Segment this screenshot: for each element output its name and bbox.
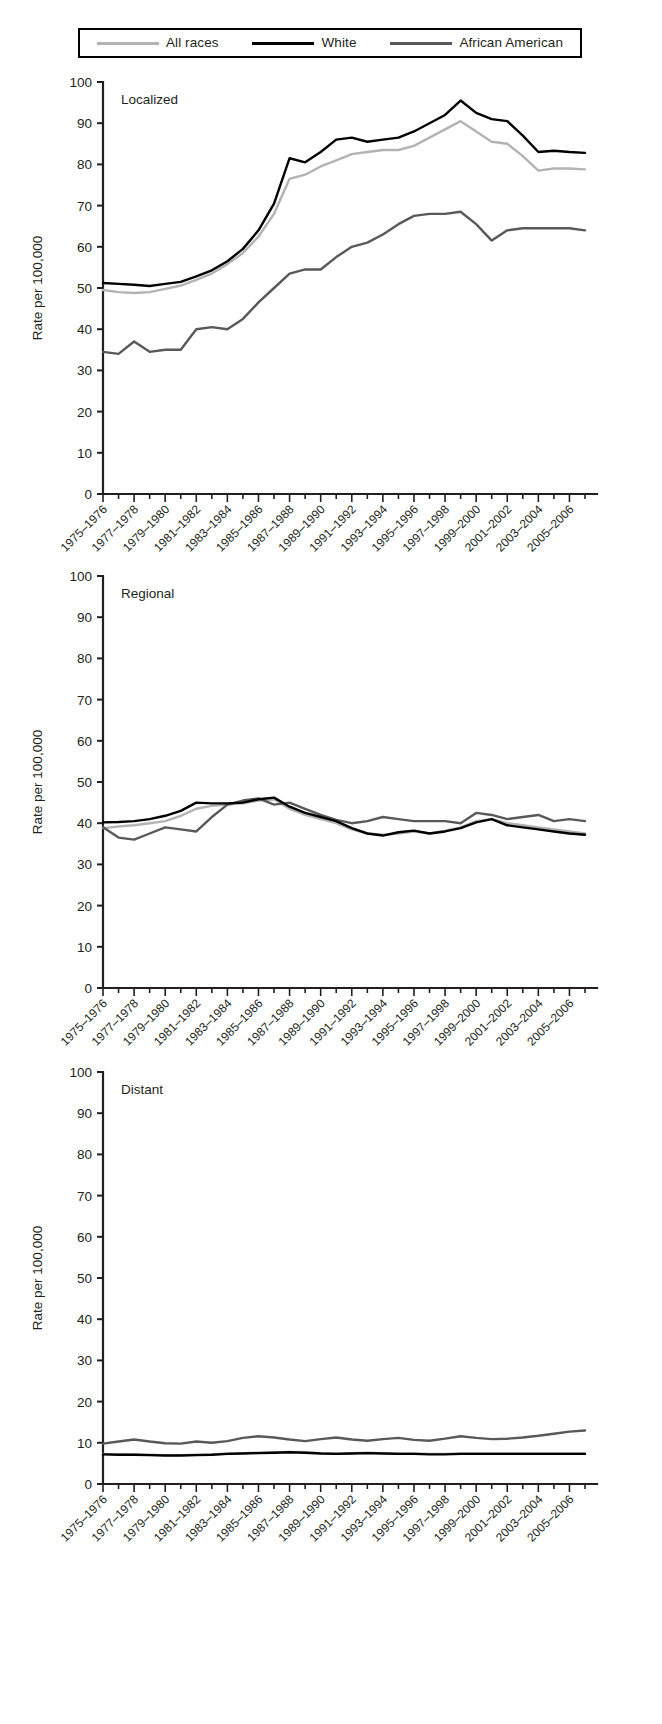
- y-tick-label: 40: [77, 322, 92, 337]
- y-tick-label: 0: [84, 487, 92, 502]
- y-tick-label: 30: [77, 857, 92, 872]
- legend-label-white: White: [321, 36, 356, 50]
- y-tick-label: 20: [77, 899, 92, 914]
- y-tick-label: 70: [77, 693, 92, 708]
- y-tick-label: 30: [77, 363, 92, 378]
- axis-lines: [103, 82, 597, 494]
- legend-item-white: White: [252, 36, 356, 50]
- panel-distant-svg: 0102030405060708090100Rate per 100,00019…: [0, 1052, 662, 1552]
- series-line-african-american: [103, 1430, 585, 1443]
- y-tick-label: 60: [77, 240, 92, 255]
- y-tick-label: 100: [69, 569, 92, 584]
- panel-title: Localized: [121, 92, 178, 107]
- figure-root: All races White African American 0102030…: [0, 0, 662, 1724]
- y-tick-label: 50: [77, 1271, 92, 1286]
- chart-panel-localized: 0102030405060708090100Rate per 100,00019…: [0, 62, 662, 562]
- series-line-african-american: [103, 798, 585, 839]
- y-tick-label: 90: [77, 610, 92, 625]
- y-tick-label: 90: [77, 116, 92, 131]
- y-tick-label: 90: [77, 1106, 92, 1121]
- y-tick-label: 0: [84, 1477, 92, 1492]
- y-tick-label: 100: [69, 75, 92, 90]
- y-tick-label: 30: [77, 1353, 92, 1368]
- y-tick-label: 60: [77, 1230, 92, 1245]
- legend-swatch-african-american: [390, 42, 452, 45]
- y-tick-label: 80: [77, 651, 92, 666]
- y-tick-label: 10: [77, 446, 92, 461]
- legend-item-african-american: African American: [390, 36, 563, 50]
- axis-lines: [103, 576, 597, 988]
- legend-item-all-races: All races: [97, 36, 219, 50]
- legend-swatch-all-races: [97, 42, 159, 45]
- y-tick-label: 50: [77, 281, 92, 296]
- panel-regional-svg: 0102030405060708090100Rate per 100,00019…: [0, 556, 662, 1056]
- series-line-all-races: [103, 121, 585, 293]
- axis-lines: [103, 1072, 597, 1484]
- panel-title: Distant: [121, 1082, 163, 1097]
- chart-legend: All races White African American: [78, 28, 582, 58]
- y-tick-label: 40: [77, 816, 92, 831]
- y-tick-label: 80: [77, 1147, 92, 1162]
- series-line-white: [103, 1452, 585, 1455]
- y-tick-label: 0: [84, 981, 92, 996]
- legend-swatch-white: [252, 42, 314, 45]
- y-axis-title: Rate per 100,000: [30, 236, 45, 340]
- y-tick-label: 100: [69, 1065, 92, 1080]
- y-tick-label: 80: [77, 157, 92, 172]
- y-tick-label: 10: [77, 1436, 92, 1451]
- chart-panel-distant: 0102030405060708090100Rate per 100,00019…: [0, 1052, 662, 1552]
- y-tick-label: 20: [77, 405, 92, 420]
- y-tick-label: 10: [77, 940, 92, 955]
- legend-label-all-races: All races: [166, 36, 219, 50]
- series-line-white: [103, 101, 585, 286]
- y-tick-label: 70: [77, 199, 92, 214]
- y-tick-label: 20: [77, 1395, 92, 1410]
- y-tick-label: 70: [77, 1189, 92, 1204]
- chart-panel-regional: 0102030405060708090100Rate per 100,00019…: [0, 556, 662, 1056]
- panel-localized-svg: 0102030405060708090100Rate per 100,00019…: [0, 62, 662, 562]
- y-axis-title: Rate per 100,000: [30, 1226, 45, 1330]
- panel-title: Regional: [121, 586, 174, 601]
- legend-label-african-american: African American: [459, 36, 563, 50]
- y-tick-label: 60: [77, 734, 92, 749]
- y-axis-title: Rate per 100,000: [30, 730, 45, 834]
- y-tick-label: 50: [77, 775, 92, 790]
- y-tick-label: 40: [77, 1312, 92, 1327]
